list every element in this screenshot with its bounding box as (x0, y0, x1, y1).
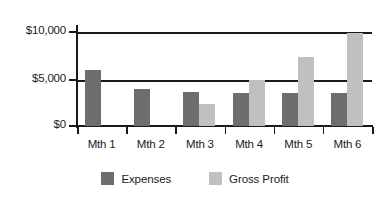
x-axis-tick-mark (274, 127, 276, 134)
y-axis-tick-label-5000: $5,000 (32, 72, 66, 84)
x-axis-tick-mark (126, 127, 128, 134)
bar-gross-profit-mth-4 (249, 80, 265, 126)
bars-layer (77, 26, 372, 126)
bar-gross-profit-mth-6 (347, 33, 363, 126)
bar-expenses-mth-6 (331, 93, 347, 126)
x-axis-tick-mark (225, 127, 227, 134)
bar-expenses-mth-2 (134, 89, 150, 126)
chart-legend: ExpensesGross Profit (0, 172, 390, 185)
legend-item-gross-profit[interactable]: Gross Profit (209, 172, 289, 185)
x-axis-label-mth-3: Mth 3 (176, 138, 224, 150)
x-axis-tick-mark (323, 127, 325, 134)
x-axis-label-mth-1: Mth 1 (78, 138, 126, 150)
legend-swatch-icon (209, 172, 222, 185)
x-axis-label-mth-6: Mth 6 (323, 138, 371, 150)
x-axis-tick-mark (372, 127, 374, 134)
bar-expenses-mth-4 (233, 93, 249, 126)
legend-item-expenses[interactable]: Expenses (101, 172, 171, 185)
bar-gross-profit-mth-5 (298, 57, 314, 126)
bar-chart: $10,000 $5,000 $0 Mth 1Mth 2Mth 3Mth 4Mt… (0, 0, 390, 209)
legend-label: Gross Profit (229, 173, 289, 185)
bar-expenses-mth-1 (85, 70, 101, 126)
y-axis-tick-label-0: $0 (54, 118, 66, 130)
legend-label: Expenses (121, 173, 171, 185)
x-axis-label-mth-5: Mth 5 (274, 138, 322, 150)
x-axis-tick-mark (175, 127, 177, 134)
legend-swatch-icon (101, 172, 114, 185)
bar-expenses-mth-3 (183, 92, 199, 126)
bar-expenses-mth-5 (282, 93, 298, 126)
x-axis-tick-mark (77, 127, 79, 134)
x-axis-label-mth-2: Mth 2 (127, 138, 175, 150)
x-axis-label-mth-4: Mth 4 (225, 138, 273, 150)
bar-gross-profit-mth-3 (199, 104, 215, 126)
y-axis-tick-label-10000: $10,000 (26, 24, 66, 36)
